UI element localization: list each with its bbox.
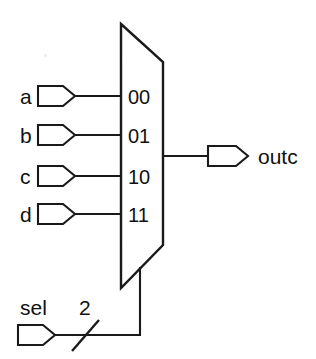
select-code-10: 10 — [128, 166, 150, 188]
input-port-d[interactable] — [38, 204, 75, 224]
input-label-a: a — [20, 85, 32, 108]
diagram-svg: a b c d 00 01 10 11 outc sel 2 — [0, 0, 316, 359]
input-port-c[interactable] — [38, 166, 75, 186]
input-port-a[interactable] — [38, 86, 75, 106]
output-label-outc: outc — [258, 145, 298, 168]
select-port-sel[interactable] — [18, 325, 55, 345]
input-label-d: d — [20, 203, 32, 226]
output-port-outc[interactable] — [208, 146, 248, 166]
select-code-11: 11 — [128, 204, 149, 226]
mux-diagram-canvas: a b c d 00 01 10 11 outc sel 2 — [0, 0, 316, 359]
select-code-00: 00 — [128, 86, 150, 108]
input-port-b[interactable] — [38, 125, 75, 145]
mux-body-outline — [121, 24, 163, 288]
input-label-b: b — [20, 124, 32, 147]
input-label-c: c — [20, 165, 31, 188]
select-code-01: 01 — [128, 125, 150, 147]
select-label-sel: sel — [20, 296, 47, 319]
select-bus-width-label: 2 — [79, 296, 91, 319]
